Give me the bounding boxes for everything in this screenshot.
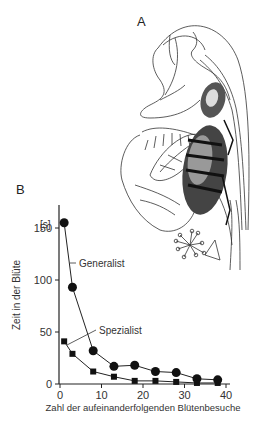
generalist-point [172,368,181,377]
spezialist-point [152,378,158,384]
x-tick-label: 0 [57,389,63,401]
generalist-annotation: Generalist [79,258,125,269]
spezialist-point [173,379,179,385]
generalist-point [151,367,160,376]
y-tick-label: 0 [46,378,52,390]
chart-b: 050100150 010203040 Zeit in der Blüte [s… [0,0,265,424]
spezialist-annotation: Spezialist [99,325,142,336]
y-unit-label: [s] [40,219,51,230]
spezialist-point [90,369,96,375]
y-tick-label: 50 [40,326,52,338]
x-tick-label: 30 [178,389,190,401]
generalist-point [89,346,98,355]
y-tick-label: 100 [34,274,52,286]
x-tick-label: 20 [137,389,149,401]
spezialist-point [215,380,221,386]
generalist-point [68,283,77,292]
generalist-line [64,223,218,380]
spezialist-point [132,378,138,384]
spezialist-point [61,338,67,344]
x-tick-label: 40 [220,389,232,401]
spezialist-point [111,374,117,380]
generalist-point [109,362,118,371]
y-axis-label: Zeit in der Blüte [11,260,22,330]
spezialist-point [194,380,200,386]
spezialist-point [69,351,75,357]
generalist-point [60,218,69,227]
x-tick-label: 10 [95,389,107,401]
generalist-point [130,361,139,370]
x-axis-label: Zahl der aufeinanderfolgenden Blütenbesu… [46,402,241,413]
